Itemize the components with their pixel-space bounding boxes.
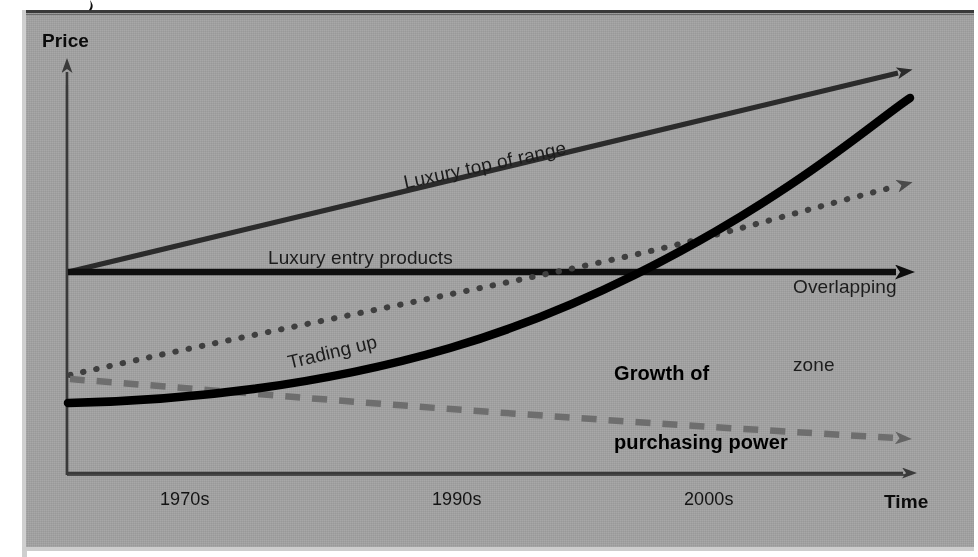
annotation-overlapping-zone-line2: zone (793, 352, 897, 378)
annotation-overlapping-zone-line1: Overlapping (793, 274, 897, 300)
annotation-growth-line1: Growth of (614, 362, 788, 385)
annotation-growth-line2: purchasing power (614, 431, 788, 454)
x-tick-label-1970s: 1970s (160, 489, 210, 510)
x-axis-label: Time (884, 491, 928, 513)
annotation-growth-of-purchasing-power: Growth of purchasing power (614, 316, 788, 500)
y-axis-label: Price (42, 30, 89, 52)
series-label-luxury-entry-products: Luxury entry products (268, 247, 453, 269)
scanned-figure: Price Time 1970s 1990s 2000s Luxury top … (0, 0, 978, 557)
annotation-overlapping-zone: Overlapping zone (793, 222, 897, 430)
x-tick-label-1990s: 1990s (432, 489, 482, 510)
